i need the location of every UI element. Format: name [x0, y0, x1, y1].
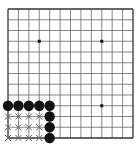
star-point: [100, 104, 103, 107]
black-stone: [44, 122, 54, 132]
star-point: [100, 40, 103, 43]
black-stone: [34, 101, 44, 111]
go-board[interactable]: [0, 0, 136, 155]
black-stone: [44, 101, 54, 111]
black-stone: [44, 133, 54, 143]
black-stone: [3, 101, 13, 111]
black-stone: [13, 101, 23, 111]
black-stone: [44, 111, 54, 121]
black-stone: [24, 101, 34, 111]
star-point: [38, 40, 41, 43]
